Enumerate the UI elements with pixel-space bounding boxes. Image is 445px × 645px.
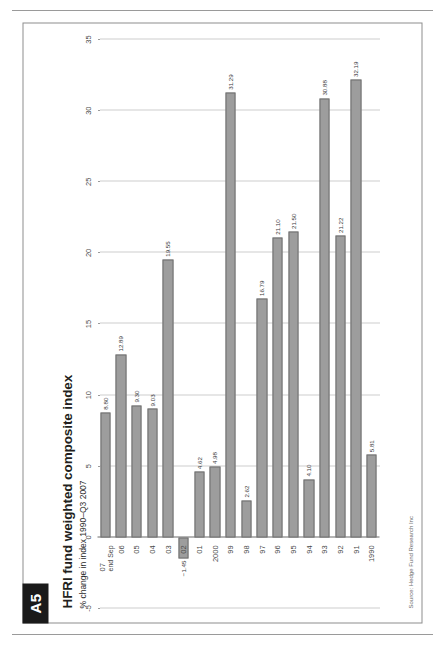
bar-95[interactable] — [288, 231, 298, 537]
page-canvas: A5 HFRI fund weighted composite index % … — [0, 0, 445, 645]
bar-value-label-93: 30.88 — [321, 80, 328, 95]
tick-label-20: 20 — [84, 248, 93, 256]
category-label-96: 96 — [273, 545, 282, 553]
bar-92[interactable] — [335, 235, 345, 537]
bar-03[interactable] — [163, 259, 173, 537]
bar-value-label-94: 4.10 — [305, 464, 312, 476]
tick-label-25: 25 — [84, 177, 93, 185]
bar-value-label-96: 21.10 — [274, 219, 281, 234]
bar-row: −1.45 — [178, 39, 188, 608]
bar-2000[interactable] — [210, 466, 220, 537]
bar-value-label-1990: 5.81 — [368, 440, 375, 452]
page-rule-top — [12, 10, 433, 11]
bar-97[interactable] — [257, 298, 267, 537]
category-label-text: 06 — [117, 545, 126, 553]
bar-row: 2.62 — [241, 39, 251, 608]
category-label-text: 93 — [320, 545, 329, 553]
category-label-04: 04 — [148, 545, 157, 553]
bar-row: 21.22 — [335, 39, 345, 608]
bar-row: 21.10 — [272, 39, 282, 608]
category-label-92: 92 — [336, 545, 345, 553]
bar-value-label-05: 9.30 — [133, 390, 140, 402]
category-label-98: 98 — [242, 545, 251, 553]
tick-label-5: 5 — [84, 464, 93, 468]
category-label-02: 02 — [179, 545, 188, 553]
bar-04[interactable] — [147, 408, 157, 536]
bar-value-label-97: 16.79 — [258, 280, 265, 295]
bar-row: 4.10 — [304, 39, 314, 608]
bar-value-label-99: 31.29 — [227, 74, 234, 89]
category-label-2000: 2000 — [211, 545, 220, 562]
figure-tab-badge: A5 — [23, 583, 49, 623]
category-label-text: 02 — [179, 545, 188, 553]
category-label-03: 03 — [164, 545, 173, 553]
bar-1990[interactable] — [366, 454, 376, 537]
bar-value-label-98: 2.62 — [243, 485, 250, 497]
bar-93[interactable] — [319, 98, 329, 537]
category-label-05: 05 — [132, 545, 141, 553]
bar-row: 19.55 — [163, 39, 173, 608]
category-label-text: 01 — [195, 545, 204, 553]
chart-source-note: Source: Hedge Fund Research Inc — [408, 516, 414, 608]
category-label-93: 93 — [320, 545, 329, 553]
bar-row: 32.19 — [351, 39, 361, 608]
category-label-91: 91 — [352, 545, 361, 553]
chart-title: HFRI fund weighted composite index — [60, 374, 75, 608]
chart-subtitle: % change in index 1990–Q3 2007 — [78, 480, 88, 608]
bar-05[interactable] — [131, 405, 141, 537]
bar-row: 21.50 — [288, 39, 298, 608]
bar-row: 12.89 — [116, 39, 126, 608]
category-label-text: 97 — [258, 545, 267, 553]
tick-label-10: 10 — [84, 390, 93, 398]
bar-row: 9.03 — [147, 39, 157, 608]
category-label-text: 2000 — [211, 545, 220, 562]
category-label-07: 07end Sep — [97, 545, 113, 571]
bar-07[interactable] — [100, 412, 110, 537]
page-rule-bottom — [12, 634, 433, 635]
bar-row: 5.81 — [366, 39, 376, 608]
category-label-text: 05 — [132, 545, 141, 553]
tick-label--5: -5 — [84, 605, 93, 612]
category-label-text: 99 — [226, 545, 235, 553]
figure-panel: A5 HFRI fund weighted composite index % … — [23, 22, 423, 623]
tick-label-30: 30 — [84, 106, 93, 114]
category-label-06: 06 — [117, 545, 126, 553]
bar-value-label-91: 32.19 — [352, 61, 359, 76]
category-label-text: 98 — [242, 545, 251, 553]
bar-value-label-02: −1.45 — [180, 560, 187, 576]
plot-area: -505101520253035 5.8132.1921.2230.884.10… — [98, 39, 380, 608]
category-label-text: 96 — [273, 545, 282, 553]
category-label-text: 1990 — [367, 545, 376, 562]
bar-value-label-06: 12.89 — [117, 336, 124, 351]
bar-value-label-07: 8.80 — [102, 397, 109, 409]
bar-row: 4.98 — [210, 39, 220, 608]
bar-value-label-2000: 4.98 — [211, 452, 218, 464]
bar-row: 4.62 — [194, 39, 204, 608]
bar-row: 9.30 — [131, 39, 141, 608]
category-sublabel-text: end Sep — [106, 545, 113, 571]
bar-value-label-03: 19.55 — [164, 241, 171, 256]
category-label-01: 01 — [195, 545, 204, 553]
bar-value-label-01: 4.62 — [196, 457, 203, 469]
bar-row: 31.29 — [225, 39, 235, 608]
bar-row: 30.88 — [319, 39, 329, 608]
bar-value-label-95: 21.50 — [290, 213, 297, 228]
bar-01[interactable] — [194, 471, 204, 537]
bar-94[interactable] — [304, 479, 314, 537]
category-label-text: 95 — [289, 545, 298, 553]
bar-06[interactable] — [116, 354, 126, 537]
category-label-text: 94 — [305, 545, 314, 553]
bar-value-label-04: 9.03 — [149, 394, 156, 406]
category-label-1990: 1990 — [367, 545, 376, 562]
bar-91[interactable] — [351, 79, 361, 537]
bar-value-label-92: 21.22 — [337, 217, 344, 232]
category-label-97: 97 — [258, 545, 267, 553]
bar-98[interactable] — [241, 500, 251, 537]
category-label-text: 03 — [164, 545, 173, 553]
bar-99[interactable] — [225, 92, 235, 537]
tick-label-0: 0 — [84, 535, 93, 539]
bar-row: 8.80 — [100, 39, 110, 608]
category-label-text: 04 — [148, 545, 157, 553]
category-label-text: 91 — [352, 545, 361, 553]
bar-96[interactable] — [272, 237, 282, 537]
